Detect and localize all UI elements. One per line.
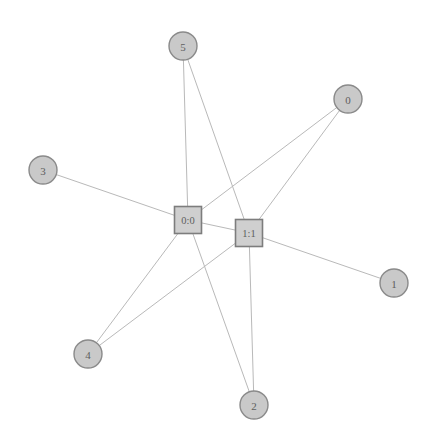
node-label: 0:0: [181, 215, 194, 226]
graph-node-3[interactable]: 3: [29, 156, 57, 184]
node-label: 2: [251, 400, 257, 412]
node-layer: 5031420:01:1: [29, 32, 408, 419]
node-label: 3: [40, 165, 46, 177]
node-label: 0: [345, 94, 351, 106]
graph-node-1[interactable]: 1: [380, 269, 408, 297]
graph-node-4[interactable]: 4: [74, 340, 102, 368]
graph-edge: [188, 220, 254, 405]
graph-canvas: 5031420:01:1: [0, 0, 429, 446]
graph-edge: [88, 233, 249, 354]
graph-edge: [249, 233, 254, 405]
graph-node-1:1[interactable]: 1:1: [236, 220, 263, 247]
node-label: 1:1: [242, 228, 255, 239]
graph-node-2[interactable]: 2: [240, 391, 268, 419]
graph-edge: [183, 46, 188, 220]
graph-node-0:0[interactable]: 0:0: [175, 207, 202, 234]
graph-edge: [249, 233, 394, 283]
node-label: 1: [391, 278, 397, 290]
graph-svg: 5031420:01:1: [0, 0, 429, 446]
graph-edge: [183, 46, 249, 233]
graph-edge: [188, 99, 348, 220]
graph-node-0[interactable]: 0: [334, 85, 362, 113]
graph-edge: [88, 220, 188, 354]
node-label: 5: [180, 41, 186, 53]
graph-edge: [43, 170, 188, 220]
graph-node-5[interactable]: 5: [169, 32, 197, 60]
graph-edge: [249, 99, 348, 233]
node-label: 4: [85, 349, 91, 361]
